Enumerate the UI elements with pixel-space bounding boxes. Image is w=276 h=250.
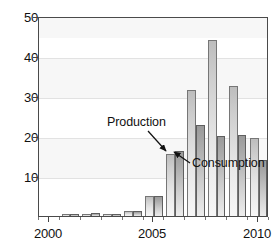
bar-production-2002 [82, 214, 91, 216]
bar-consumption-2005 [154, 196, 163, 216]
bar-consumption-2004 [133, 211, 142, 216]
bar-consumption-2007 [196, 125, 205, 216]
x-axis-minor-tick [163, 217, 164, 220]
bar-production-2009 [229, 86, 238, 216]
x-axis-tick-label-2010: 2010 [235, 227, 276, 240]
x-axis-tick-mark-2005 [152, 217, 153, 222]
bar-production-2008 [208, 40, 217, 216]
bar-consumption-2006 [175, 151, 184, 216]
x-axis-minor-tick [80, 217, 81, 220]
x-axis-minor-tick [247, 217, 248, 220]
bar-consumption-2009 [238, 135, 247, 216]
x-axis-tick-label-2005: 2005 [130, 227, 174, 240]
chart-figure: 50 40 30 20 10 2000 2005 2010 Production… [0, 0, 276, 250]
x-axis-minor-tick [122, 217, 123, 220]
x-axis-minor-tick [268, 217, 269, 220]
bar-production-2005 [145, 196, 154, 216]
bar-consumption-2003 [112, 214, 121, 216]
x-axis-minor-tick [226, 217, 227, 220]
x-axis-minor-tick [101, 217, 102, 220]
bar-production-2001 [62, 214, 71, 216]
x-axis-tick-mark-2000 [48, 217, 49, 222]
x-axis-minor-tick [143, 217, 144, 220]
bar-consumption-2002 [91, 213, 100, 216]
x-axis-minor-tick [59, 217, 60, 220]
annotation-label-production: Production [107, 116, 166, 129]
bar-production-2006 [166, 154, 175, 216]
bar-consumption-2008 [217, 136, 226, 216]
bar-consumption-2001 [70, 214, 79, 216]
x-axis-minor-tick [38, 217, 39, 220]
x-axis-tick-label-2000: 2000 [26, 227, 70, 240]
bar-production-2010 [250, 138, 259, 216]
annotation-label-consumption: Consumption [192, 157, 265, 170]
bar-production-2007 [187, 90, 196, 216]
bar-production-2004 [124, 211, 133, 216]
bar-production-2003 [103, 214, 112, 216]
x-axis-minor-tick [184, 217, 185, 220]
x-axis-tick-mark-2010 [257, 217, 258, 222]
x-axis-minor-tick [205, 217, 206, 220]
